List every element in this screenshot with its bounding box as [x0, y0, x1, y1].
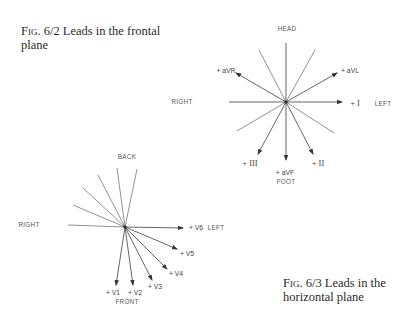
center-point — [284, 100, 288, 104]
label-left: LEFT — [208, 224, 225, 231]
label-right: RIGHT — [18, 221, 39, 228]
lead-label-v3: + V3 — [148, 283, 162, 290]
frontal-plane-diagram: HEAD RIGHT LEFT FOOT + aVR + aVL + I + I… — [171, 25, 391, 185]
label-left: LEFT — [375, 100, 392, 107]
lead-v5-negative-line — [73, 205, 125, 227]
lead-label-avr: + aVR — [216, 67, 235, 74]
lead-label-i: + I — [350, 98, 360, 108]
label-front: FRONT — [115, 298, 138, 305]
lead-avr-negative-line — [286, 102, 334, 133]
lead-v4-negative-line — [83, 188, 125, 227]
lead-label-avf: + aVF — [276, 169, 294, 176]
lead-v1-negative-line — [117, 168, 125, 227]
horizontal-plane-diagram: BACK RIGHT LEFT FRONT + V6 + V5 + V4 + V… — [18, 153, 224, 305]
lead-label-v1: + V1 — [106, 289, 120, 296]
lead-v5-arrow — [125, 227, 177, 249]
lead-v4-arrow — [125, 227, 167, 269]
center-point — [123, 225, 127, 229]
lead-label-iii: + III — [242, 158, 258, 168]
lead-label-v6: + V6 — [189, 224, 203, 231]
lead-v2-negative-line — [125, 169, 137, 227]
lead-label-v5: + V5 — [180, 250, 194, 257]
lead-ii-arrow — [286, 102, 313, 154]
lead-label-avl: + aVL — [341, 67, 359, 74]
lead-label-v4: + V4 — [169, 270, 183, 277]
lead-iii-arrow — [258, 102, 286, 154]
lead-label-v2: + V2 — [128, 289, 142, 296]
lead-diagrams: HEAD RIGHT LEFT FOOT + aVR + aVL + I + I… — [0, 0, 403, 326]
lead-label-ii: + II — [312, 158, 325, 168]
label-right: RIGHT — [171, 98, 192, 105]
lead-v6-negative-line — [68, 225, 125, 227]
label-head: HEAD — [278, 25, 297, 32]
label-foot: FOOT — [277, 178, 296, 185]
lead-v1-arrow — [116, 227, 125, 285]
lead-v3-negative-line — [98, 175, 125, 227]
lead-v6-arrow — [125, 227, 183, 228]
label-back: BACK — [118, 153, 137, 160]
